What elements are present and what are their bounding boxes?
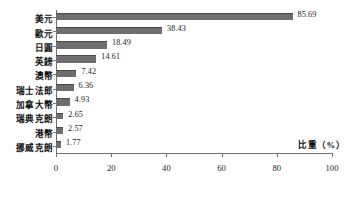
- bar-value-label: 18.49: [112, 38, 131, 47]
- category-label: 瑞士法郎: [0, 84, 53, 96]
- x-tick: [111, 153, 112, 157]
- category-label: 瑞典克朗: [0, 112, 53, 124]
- x-tick: [332, 153, 333, 157]
- bar-row: 2.65: [56, 110, 353, 124]
- bar-row: 7.42: [56, 67, 353, 81]
- y-tick: [53, 146, 56, 147]
- bar-row: 6.36: [56, 82, 353, 96]
- y-tick: [53, 60, 56, 61]
- bar-value-label: 38.43: [167, 24, 186, 33]
- y-tick: [53, 17, 56, 18]
- x-tick-label: 80: [273, 163, 282, 173]
- bar-chart: 85.6938.4318.4914.617.426.364.932.652.57…: [0, 0, 353, 201]
- bar-value-label: 2.65: [68, 110, 83, 119]
- bar-value-label: 7.42: [81, 67, 96, 76]
- category-label: 歐元: [0, 27, 53, 39]
- bar: [56, 41, 107, 48]
- bar: [56, 70, 76, 77]
- bar: [56, 141, 61, 148]
- y-tick: [53, 117, 56, 118]
- category-label: 加拿大幣: [0, 98, 53, 110]
- bar: [56, 98, 70, 105]
- bar-row: 18.49: [56, 39, 353, 53]
- bar: [56, 127, 63, 134]
- bar-row: 14.61: [56, 53, 353, 67]
- bar: [56, 55, 96, 62]
- category-label: 挪威克朗: [0, 141, 53, 153]
- x-tick-label: 20: [107, 163, 116, 173]
- bar-value-label: 4.93: [75, 95, 90, 104]
- y-tick: [53, 46, 56, 47]
- category-label: 英鎊: [0, 55, 53, 67]
- bar-row: 85.69: [56, 10, 353, 24]
- category-label: 港幣: [0, 127, 53, 139]
- bar-value-label: 1.77: [66, 138, 81, 147]
- y-tick: [53, 103, 56, 104]
- x-tick: [56, 153, 57, 157]
- bar-value-label: 2.57: [68, 124, 83, 133]
- y-tick: [53, 89, 56, 90]
- bar: [56, 84, 74, 91]
- category-label: 日圓: [0, 41, 53, 53]
- bar: [56, 113, 63, 120]
- bar-value-label: 14.61: [101, 52, 120, 61]
- bar-row: 2.57: [56, 124, 353, 138]
- bar-row: 38.43: [56, 24, 353, 38]
- x-tick-label: 60: [217, 163, 226, 173]
- bar: [56, 27, 162, 34]
- category-label: 美元: [0, 12, 53, 24]
- x-tick: [166, 153, 167, 157]
- y-tick: [53, 132, 56, 133]
- bar-row: 4.93: [56, 96, 353, 110]
- bar: [56, 13, 293, 20]
- x-tick-label: 40: [162, 163, 171, 173]
- y-tick: [53, 74, 56, 75]
- x-axis-line: [56, 153, 333, 154]
- x-tick-label: 0: [54, 163, 58, 173]
- bar-value-label: 85.69: [298, 10, 317, 19]
- bar-value-label: 6.36: [79, 81, 94, 90]
- x-tick-label: 100: [326, 163, 339, 173]
- category-label: 澳幣: [0, 69, 53, 81]
- x-tick: [277, 153, 278, 157]
- x-axis-title: 比重（%）: [298, 138, 345, 150]
- y-tick: [53, 31, 56, 32]
- x-tick: [222, 153, 223, 157]
